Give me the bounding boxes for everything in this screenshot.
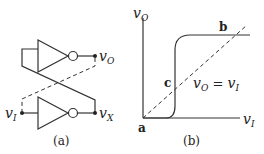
wire-feedback	[22, 49, 95, 113]
inverter-bottom-bubble	[69, 109, 78, 118]
x-axis-label: vI	[243, 111, 255, 129]
inverter-top-bubble	[69, 52, 78, 61]
inverter-top	[38, 40, 68, 72]
label-vi: vI	[5, 105, 17, 123]
point-b: b	[219, 20, 227, 34]
node-vx	[93, 111, 97, 115]
dashed-connection	[22, 58, 95, 111]
graph-b: vO vI a b c vO = vI (b)	[133, 5, 255, 148]
label-vo: vO	[99, 48, 115, 66]
point-c: c	[164, 76, 171, 90]
diagram-canvas: vO vX vI (a) vO vI a b c vO = vI (b)	[0, 0, 264, 154]
caption-a: (a)	[53, 134, 70, 148]
identity-line	[143, 25, 247, 118]
identity-label: vO = vI	[193, 75, 239, 93]
y-axis-label: vO	[133, 5, 149, 23]
inverter-bottom	[38, 97, 68, 129]
label-vx: vX	[99, 105, 114, 123]
node-vo	[93, 54, 97, 58]
node-vi	[20, 111, 24, 115]
point-a: a	[138, 121, 146, 135]
caption-b: (b)	[183, 134, 200, 148]
circuit-a: vO vX vI (a)	[5, 40, 115, 148]
